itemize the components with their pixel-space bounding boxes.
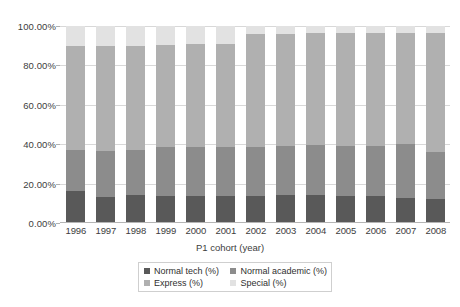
x-axis-tick-label: 2001 [216,225,235,236]
segment-2001-s1[interactable] [216,147,235,196]
segment-2004-s1[interactable] [306,145,325,195]
column-1999[interactable] [156,26,175,223]
column-2008[interactable] [426,26,445,223]
column-2007[interactable] [396,26,415,223]
x-axis-tick-label: 2007 [396,225,415,236]
y-axis-tick-label: 0.00% [0,218,56,229]
segment-1999-s3[interactable] [156,26,175,45]
x-axis-tick-label: 2000 [186,225,205,236]
segment-1998-s3[interactable] [126,26,145,46]
segment-2007-s2[interactable] [396,33,415,144]
segment-2006-s3[interactable] [366,26,385,33]
segment-2005-s3[interactable] [336,26,355,33]
segment-2002-s0[interactable] [246,196,265,223]
segment-2003-s2[interactable] [276,34,295,146]
segment-2006-s1[interactable] [366,146,385,196]
segment-2002-s3[interactable] [246,26,265,34]
column-1998[interactable] [126,26,145,223]
segment-2008-s1[interactable] [426,152,445,199]
segment-1998-s1[interactable] [126,150,145,195]
segment-2005-s2[interactable] [336,33,355,146]
segment-2006-s2[interactable] [366,33,385,146]
segment-2007-s3[interactable] [396,26,415,33]
segment-2003-s3[interactable] [276,26,295,34]
segment-2005-s1[interactable] [336,146,355,196]
legend-item-0[interactable]: Normal tech (%) [144,266,230,276]
y-axis-tick-label: 80.00% [0,60,56,71]
legend-label: Normal tech (%) [154,266,219,276]
stacked-column-chart: 0.00%20.00%40.00%60.00%80.00%100.00% 199… [0,0,460,307]
segment-1999-s2[interactable] [156,45,175,147]
segment-2007-s1[interactable] [396,144,415,198]
segment-1996-s0[interactable] [66,191,85,223]
segment-1999-s1[interactable] [156,147,175,196]
segment-2003-s1[interactable] [276,146,295,195]
legend-label: Normal academic (%) [240,266,327,276]
segment-2004-s3[interactable] [306,26,325,33]
column-1996[interactable] [66,26,85,223]
segment-2007-s0[interactable] [396,198,415,223]
segment-1996-s3[interactable] [66,26,85,46]
x-axis-tick-label: 2008 [426,225,445,236]
segment-2000-s1[interactable] [186,147,205,196]
y-axis-tick-mark [56,223,60,224]
segment-2001-s3[interactable] [216,26,235,44]
segment-1997-s1[interactable] [96,151,115,197]
x-axis-line [60,222,450,223]
x-axis-title: P1 cohort (year) [0,242,460,253]
x-axis-ticks: 1996199719981999200020012002200320042005… [60,225,450,241]
segment-2002-s1[interactable] [246,147,265,196]
segment-1996-s2[interactable] [66,46,85,150]
segment-2004-s0[interactable] [306,195,325,223]
column-2005[interactable] [336,26,355,223]
segment-1999-s0[interactable] [156,196,175,223]
column-2000[interactable] [186,26,205,223]
segment-1998-s0[interactable] [126,195,145,223]
segment-2008-s3[interactable] [426,26,445,33]
column-1997[interactable] [96,26,115,223]
segment-1997-s3[interactable] [96,26,115,46]
column-2004[interactable] [306,26,325,223]
segment-1996-s1[interactable] [66,150,85,191]
x-axis-tick-label: 1998 [126,225,145,236]
legend-label: Express (%) [154,278,203,288]
segment-2006-s0[interactable] [366,196,385,223]
x-axis-tick-label: 2005 [336,225,355,236]
segment-2002-s2[interactable] [246,34,265,147]
legend-item-3[interactable]: Special (%) [230,278,327,288]
legend-item-1[interactable]: Normal academic (%) [230,266,327,276]
segment-2008-s2[interactable] [426,33,445,152]
y-axis-tick-label: 60.00% [0,99,56,110]
legend-swatch-icon [230,280,236,286]
segment-2001-s0[interactable] [216,196,235,223]
segment-2001-s2[interactable] [216,44,235,147]
x-axis-tick-label: 2006 [366,225,385,236]
legend-item-2[interactable]: Express (%) [144,278,230,288]
segment-1997-s0[interactable] [96,197,115,223]
plot-area [60,26,450,223]
legend-swatch-icon [144,268,150,274]
segment-2000-s0[interactable] [186,196,205,223]
column-2002[interactable] [246,26,265,223]
column-2001[interactable] [216,26,235,223]
segment-1997-s2[interactable] [96,46,115,151]
segment-2000-s2[interactable] [186,44,205,147]
segment-2008-s0[interactable] [426,199,445,223]
y-axis-tick-label: 20.00% [0,178,56,189]
column-group [60,26,450,223]
column-2003[interactable] [276,26,295,223]
y-axis-tick-label: 100.00% [0,21,56,32]
segment-2004-s2[interactable] [306,33,325,145]
x-axis-tick-label: 2002 [246,225,265,236]
chart-legend: Normal tech (%)Normal academic (%)Expres… [138,262,332,292]
segment-2003-s0[interactable] [276,195,295,223]
segment-2005-s0[interactable] [336,196,355,223]
column-2006[interactable] [366,26,385,223]
y-axis-tick-label: 40.00% [0,139,56,150]
legend-swatch-icon [144,280,150,286]
segment-1998-s2[interactable] [126,46,145,150]
legend-swatch-icon [230,268,236,274]
x-axis-tick-label: 1996 [66,225,85,236]
legend-label: Special (%) [240,278,286,288]
segment-2000-s3[interactable] [186,26,205,44]
